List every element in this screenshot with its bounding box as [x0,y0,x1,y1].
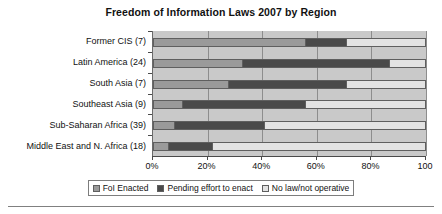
y-axis-category-label: Southeast Asia (9) [72,99,146,109]
bar-segment [153,59,243,68]
legend-label: Pending effort to enact [167,183,252,193]
chart-legend: FoI EnactedPending effort to enactNo law… [88,180,354,196]
bar-segment [169,142,213,151]
gridline-100 [426,31,427,156]
y-axis-category-label: Sub-Saharan Africa (39) [49,120,146,130]
bar-segment [153,121,175,130]
y-tick [148,114,152,115]
x-tick-label: 20% [198,161,216,171]
bar-segment [183,100,306,109]
x-tick [261,157,262,160]
y-tick [148,73,152,74]
bar-segment [213,142,426,151]
legend-item[interactable]: No law/not operative [262,183,350,193]
legend-swatch-icon [93,185,100,192]
x-tick [207,157,208,160]
legend-label: FoI Enacted [103,183,149,193]
bar-segment [153,38,306,47]
bar-row [153,121,426,130]
bottom-divider [8,206,434,207]
x-tick [425,157,426,160]
bar-segment [347,38,426,47]
bar-segment [153,100,183,109]
legend-item[interactable]: FoI Enacted [93,183,149,193]
y-tick [148,31,152,32]
y-tick [148,94,152,95]
bar-segment [306,100,426,109]
x-tick [370,157,371,160]
bar-series-group [153,31,426,156]
bar-row [153,59,426,68]
bar-segment [153,142,169,151]
bar-row [153,142,426,151]
bar-segment [153,80,229,89]
y-axis-category-label: Former CIS (7) [86,36,146,46]
y-axis-category-label: Latin America (24) [73,57,146,67]
bar-row [153,38,426,47]
legend-swatch-icon [157,185,164,192]
bar-row [153,100,426,109]
chart-container: Freedom of Information Laws 2007 by Regi… [0,0,442,214]
x-tick-label: 40% [252,161,270,171]
chart-title: Freedom of Information Laws 2007 by Regi… [0,6,442,18]
bar-segment [347,80,426,89]
x-tick [152,157,153,160]
bar-segment [229,80,346,89]
x-tick [316,157,317,160]
x-tick-label: 80% [361,161,379,171]
y-axis-category-label: Middle East and N. Africa (18) [26,141,146,151]
bar-segment [390,59,425,68]
bar-segment [306,38,347,47]
y-tick [148,135,152,136]
bar-segment [243,59,390,68]
legend-label: No law/not operative [272,183,350,193]
legend-swatch-icon [262,185,269,192]
y-axis-category-label: South Asia (7) [89,78,146,88]
bar-segment [175,121,265,130]
y-tick [148,52,152,53]
bar-row [153,80,426,89]
plot-area [152,31,426,156]
x-tick-label: 60% [307,161,325,171]
bar-segment [265,121,426,130]
x-tick-label: 0% [145,161,158,171]
x-axis-line [152,156,426,157]
legend-item[interactable]: Pending effort to enact [157,183,252,193]
x-tick-label: 100 [417,161,432,171]
